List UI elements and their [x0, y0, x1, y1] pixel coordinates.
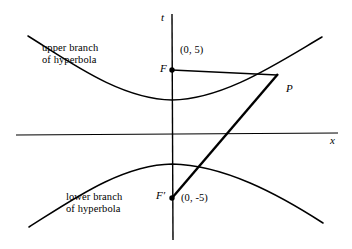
upper-branch-caption-line1: upper branch: [42, 42, 98, 54]
t-axis-line: [172, 14, 173, 240]
coordinate-label-lower-focus: (0, -5): [181, 192, 208, 204]
point-label-P: P: [286, 82, 293, 95]
x-axis-label: x: [330, 134, 335, 147]
point-marker-F-prime: [169, 195, 174, 200]
point-marker-F: [169, 67, 174, 72]
coordinate-label-upper-focus: (0, 5): [180, 44, 203, 56]
diagram-canvas: [0, 0, 352, 249]
point-label-F-prime: F′: [156, 189, 165, 202]
lower-branch-caption-line1: lower branch: [66, 191, 122, 203]
lower-branch-caption-line2: of hyperbola: [66, 203, 122, 215]
x-axis-line: [16, 133, 338, 135]
upper-branch-caption-line2: of hyperbola: [42, 54, 98, 66]
upper-branch-caption: upper branch of hyperbola: [42, 42, 98, 67]
point-label-F: F: [160, 62, 167, 75]
t-axis-label: t: [161, 11, 164, 24]
lower-branch-caption: lower branch of hyperbola: [66, 191, 122, 216]
segment-Fprime-to-P: [172, 74, 278, 198]
hyperbola-diagram: t x F (0, 5) F′ (0, -5) P upper branch o…: [0, 0, 352, 249]
